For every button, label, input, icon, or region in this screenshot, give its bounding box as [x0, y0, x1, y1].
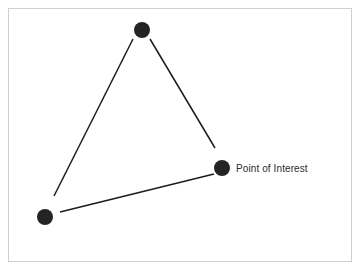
node-bottom-left[interactable] [37, 209, 53, 225]
node-label-point-of-interest: Point of Interest [236, 163, 308, 175]
edge-bottom-left-to-point-of-interest [60, 174, 214, 212]
node-top[interactable] [134, 22, 150, 38]
edge-top-to-point-of-interest [150, 39, 215, 148]
edge-group [54, 39, 215, 212]
graph-svg [0, 0, 360, 273]
node-point-of-interest[interactable] [214, 160, 230, 176]
edge-top-to-bottom-left [54, 39, 133, 196]
diagram-canvas: Point of Interest [0, 0, 360, 273]
